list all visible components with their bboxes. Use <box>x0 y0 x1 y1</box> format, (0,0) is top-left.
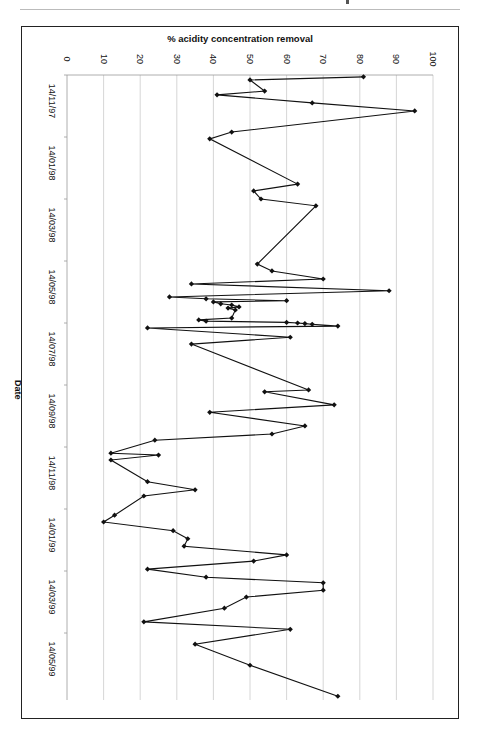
data-point-marker <box>229 302 234 307</box>
data-point-marker <box>156 452 161 457</box>
data-point-marker <box>269 268 274 273</box>
data-point-marker <box>108 451 113 456</box>
data-point-marker <box>321 276 326 281</box>
data-point-marker <box>182 544 187 549</box>
date-tick-label: 14/03/98 <box>47 207 57 242</box>
value-tick-label: 100 <box>428 51 438 66</box>
data-point-marker <box>269 431 274 436</box>
data-point-marker <box>335 324 340 329</box>
data-point-marker <box>152 438 157 443</box>
value-tick-label: 80 <box>355 54 365 64</box>
data-point-marker <box>244 594 249 599</box>
data-point-marker <box>288 627 293 632</box>
data-point-marker <box>233 307 238 312</box>
date-tick-label: 14/11/98 <box>47 456 57 490</box>
value-tick-label: 30 <box>172 54 182 64</box>
data-point-marker <box>386 288 391 293</box>
data-point-marker <box>193 642 198 647</box>
date-tick-label: 14/05/98 <box>47 269 57 304</box>
date-tick-label: 14/03/99 <box>47 579 57 614</box>
data-point-marker <box>108 457 113 462</box>
date-tick-label: 14/05/99 <box>47 641 57 676</box>
data-point-marker <box>203 575 208 580</box>
data-point-marker <box>189 281 194 286</box>
data-point-marker <box>222 606 227 611</box>
data-point-marker <box>214 92 219 97</box>
data-point-marker <box>203 296 208 301</box>
data-point-marker <box>145 479 150 484</box>
data-point-marker <box>332 402 337 407</box>
data-point-marker <box>251 558 256 563</box>
value-tick-label: 40 <box>208 54 218 64</box>
data-point-marker <box>196 317 201 322</box>
data-point-marker <box>145 567 150 572</box>
value-tick-label: 10 <box>99 54 109 64</box>
data-point-marker <box>229 129 234 134</box>
data-point-marker <box>302 321 307 326</box>
data-point-marker <box>335 694 340 699</box>
value-tick-label: 70 <box>318 54 328 64</box>
data-point-marker <box>101 519 106 524</box>
data-point-marker <box>207 136 212 141</box>
data-point-marker <box>284 320 289 325</box>
data-point-marker <box>211 299 216 304</box>
data-point-marker <box>288 335 293 340</box>
data-point-marker <box>262 389 267 394</box>
value-tick-label: 50 <box>245 54 255 64</box>
data-point-marker <box>236 304 241 309</box>
value-tick-label: 20 <box>135 54 145 64</box>
data-point-marker <box>189 341 194 346</box>
data-point-marker <box>207 410 212 415</box>
date-tick-label: 14/07/98 <box>47 331 57 366</box>
date-tick-label: 14/09/98 <box>47 393 57 428</box>
data-point-marker <box>284 298 289 303</box>
line-chart: 010203040506070809010014/11/9714/01/9814… <box>0 0 480 739</box>
data-point-marker <box>302 423 307 428</box>
data-point-marker <box>321 588 326 593</box>
date-tick-label: 14/01/99 <box>47 517 57 552</box>
date-tick-label: 14/11/97 <box>47 84 57 118</box>
data-point-marker <box>145 325 150 330</box>
data-point-marker <box>412 108 417 113</box>
data-point-marker <box>306 387 311 392</box>
data-point-marker <box>284 552 289 557</box>
value-tick-label: 60 <box>282 54 292 64</box>
data-point-marker <box>247 663 252 668</box>
data-point-marker <box>321 580 326 585</box>
data-point-marker <box>295 182 300 187</box>
data-point-marker <box>229 315 234 320</box>
data-point-marker <box>295 320 300 325</box>
data-line <box>104 77 415 696</box>
data-point-marker <box>185 536 190 541</box>
data-point-marker <box>141 619 146 624</box>
date-tick-label: 14/01/98 <box>47 145 57 180</box>
data-point-marker <box>310 100 315 105</box>
data-point-marker <box>171 528 176 533</box>
value-tick-label: 90 <box>391 54 401 64</box>
data-point-marker <box>193 487 198 492</box>
data-point-marker <box>167 294 172 299</box>
data-point-marker <box>225 306 230 311</box>
value-tick-label: 0 <box>62 56 72 61</box>
